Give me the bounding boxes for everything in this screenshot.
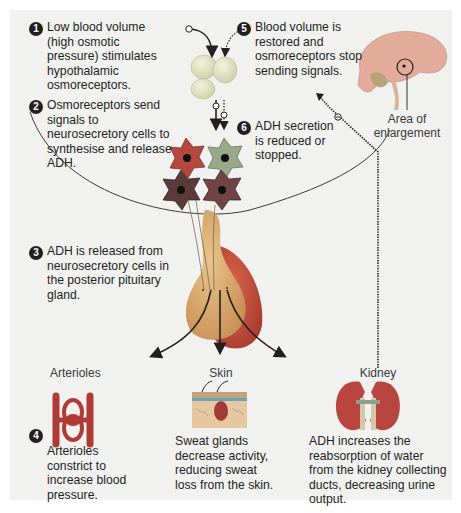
stimulus-arrow: [190, 29, 212, 55]
osmoreceptor-cells: [191, 55, 237, 99]
step-text-6: ADH secretion is reduced or stopped.: [255, 119, 337, 163]
step-number-4: 4: [29, 429, 43, 443]
brain-illustration: [358, 31, 447, 110]
minus-symbol-1: [221, 112, 227, 118]
step-number-5: 5: [237, 22, 251, 36]
target-label-kidney: Kidney: [358, 366, 398, 380]
step-text-3: ADH is released from neurosecretory cell…: [47, 244, 173, 302]
step-number-6: 6: [237, 121, 251, 135]
skin-illustration: [192, 381, 247, 428]
pituitary-gland: [186, 200, 262, 348]
step-text-1: Low blood volume (high osmotic pressure)…: [47, 20, 169, 93]
plus-symbol-2: [213, 103, 219, 109]
target-label-arterioles: Arterioles: [50, 366, 100, 380]
target-label-skin: Skin: [208, 366, 234, 380]
kidney-illustration: [336, 382, 400, 431]
step-number-3: 3: [29, 246, 43, 260]
brain-label: Area of enlargement: [372, 112, 442, 140]
step-text-5: Blood volume is restored and osmorecepto…: [255, 20, 367, 78]
target-text-skin: Sweat glands decrease activity, reducing…: [175, 434, 275, 492]
target-text-arterioles: Arterioles constrict to increase blood p…: [47, 444, 142, 502]
target-text-kidney: ADH increases the reabsorption of water …: [309, 434, 449, 507]
neurosecretory-cells: [163, 138, 243, 210]
arteriole-illustration: [56, 396, 90, 444]
step-number-2: 2: [29, 100, 43, 114]
plus-symbol-1: [186, 26, 192, 32]
step-text-2: Osmoreceptors send signals to neurosecre…: [47, 98, 172, 171]
step-number-1: 1: [29, 22, 43, 36]
